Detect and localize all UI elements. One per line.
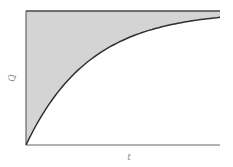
chart: Q t (0, 0, 233, 167)
x-axis-label: t (127, 152, 131, 162)
shaded-area (26, 11, 220, 145)
y-axis-label: Q (7, 74, 17, 82)
